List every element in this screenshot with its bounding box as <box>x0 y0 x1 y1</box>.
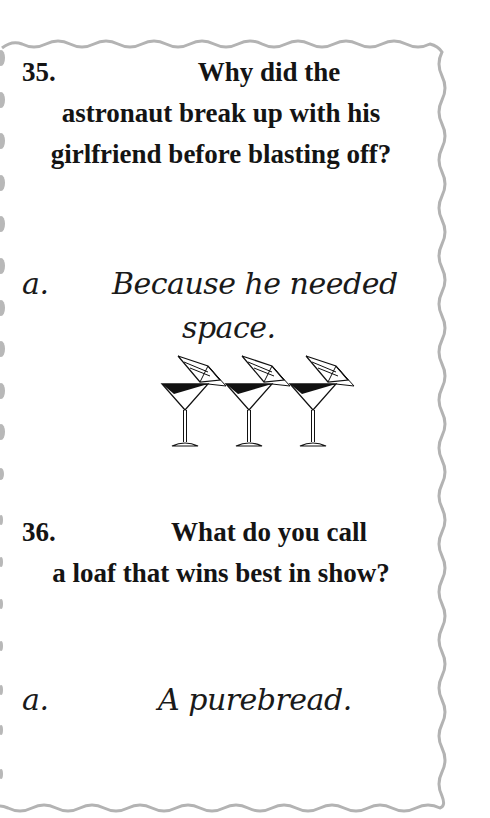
answer-letter: a. <box>22 262 48 306</box>
answer-35: a. Because he needed space. <box>22 262 420 350</box>
answer-text: A purebread. <box>22 678 420 722</box>
question-number: 36. <box>22 512 56 553</box>
question-text-line1: What do you call <box>22 512 420 553</box>
answer-text-line1: Because he needed <box>22 262 420 306</box>
question-text: astronaut break up with his girlfriend b… <box>51 98 392 169</box>
martini-glasses-decoration <box>160 352 360 452</box>
question-text: a loaf that wins best in show? <box>52 558 390 588</box>
question-36: 36. What do you call a loaf that wins be… <box>22 512 420 594</box>
martini-glass-icon <box>226 356 290 446</box>
answer-text-line2: space. <box>22 306 420 350</box>
martini-glass-icon <box>290 356 354 446</box>
answer-36: a. A purebread. <box>22 678 420 722</box>
martini-glass-icon <box>162 356 226 446</box>
question-number: 35. <box>22 52 56 93</box>
answer-letter: a. <box>22 678 48 722</box>
question-text-line1: Why did the <box>22 52 420 93</box>
question-35: 35. Why did the astronaut break up with … <box>22 52 420 175</box>
